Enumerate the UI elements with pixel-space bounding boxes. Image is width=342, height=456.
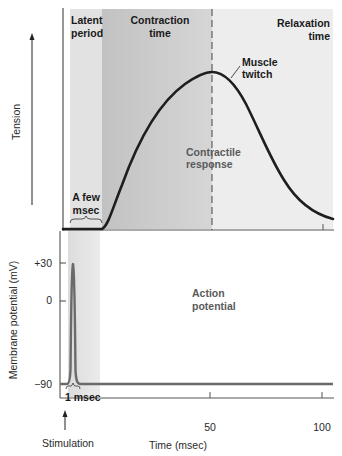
stimulation-label: Stimulation — [42, 437, 94, 449]
xtick-label-100: 100 — [313, 421, 331, 433]
xtick-label-50: 50 — [204, 421, 216, 433]
x-axis-title: Time (msec) — [149, 439, 207, 451]
action-potential-label-2: potential — [192, 300, 236, 312]
muscle-twitch-label-1: Muscle — [242, 56, 278, 68]
ytick-label-zero: 0 — [46, 294, 52, 306]
tension-label: Tension — [10, 104, 22, 140]
few-msec-label-1: A few — [72, 191, 100, 203]
ytick-label-plus30: +30 — [34, 257, 52, 269]
muscle-twitch-diagram: Tension Latent period Contraction time R… — [0, 0, 342, 456]
contractile-label-2: response — [186, 158, 233, 170]
action-potential-panel: +30 0 −90 Membrane potential (mV) 50 100… — [7, 231, 334, 451]
latent-label-2: period — [71, 27, 103, 39]
contraction-label-1: Contraction — [131, 14, 190, 26]
ap-shaded-region — [68, 231, 100, 397]
action-potential-curve — [60, 264, 333, 384]
relaxation-time-region — [212, 9, 333, 229]
contraction-label-2: time — [149, 27, 171, 39]
membrane-potential-label: Membrane potential (mV) — [7, 261, 19, 379]
action-potential-label-1: Action — [192, 287, 225, 299]
one-msec-label: 1 msec — [65, 391, 101, 403]
relaxation-label-2: time — [308, 30, 330, 42]
contractile-label-1: Contractile — [186, 146, 241, 158]
ytick-label-minus90: −90 — [34, 378, 52, 390]
relaxation-label-1: Relaxation — [277, 17, 330, 29]
arrow-up-icon — [63, 410, 68, 417]
tension-panel: Tension Latent period Contraction time R… — [10, 8, 334, 231]
muscle-twitch-label-2: twitch — [242, 68, 272, 80]
arrow-up-icon — [30, 33, 35, 40]
few-msec-label-2: msec — [73, 204, 100, 216]
latent-label-1: Latent — [71, 14, 103, 26]
